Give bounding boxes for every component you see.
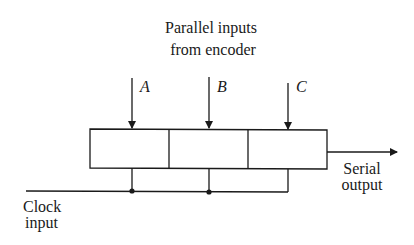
shift-register xyxy=(90,129,327,169)
output-label-line-2: output xyxy=(342,176,383,194)
clock-label-line-2: input xyxy=(25,214,58,232)
clock-label-line-1: Clock xyxy=(23,198,61,215)
input-label-c: C xyxy=(296,78,307,95)
input-label-b: B xyxy=(217,78,227,95)
register-outline xyxy=(90,129,327,169)
input-arrow-c: C xyxy=(288,78,307,129)
clock-line xyxy=(26,168,288,195)
junction-dot-1 xyxy=(129,188,134,193)
shift-register-diagram: Parallel inputs from encoder A B C Seria… xyxy=(0,0,414,245)
input-arrow-a: A xyxy=(132,78,150,128)
title-line-1: Parallel inputs xyxy=(165,19,257,37)
junction-dot-2 xyxy=(206,189,211,194)
title-line-2: from encoder xyxy=(170,41,256,58)
input-arrow-b: B xyxy=(209,77,227,128)
output-label-line-1: Serial xyxy=(343,160,381,177)
input-label-a: A xyxy=(139,78,150,95)
